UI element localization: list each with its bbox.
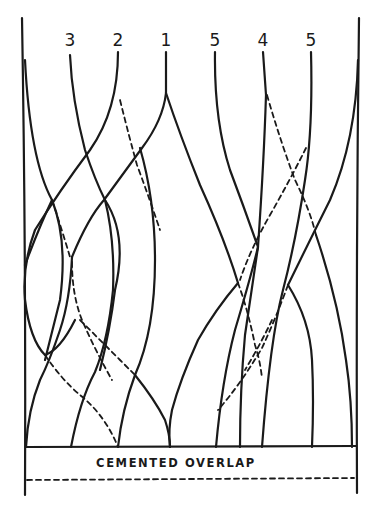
cemented-overlap-caption: CEMENTED OVERLAP: [96, 456, 256, 470]
strand-dashed-left-c: [45, 355, 118, 447]
strand-dashed-right-a: [240, 148, 306, 280]
strand-label-3: 3: [65, 30, 76, 50]
strand-label-5b: 5: [306, 30, 317, 50]
base-line: [26, 446, 356, 447]
strand-outer-left: [25, 60, 63, 360]
strand-5b: [262, 52, 311, 447]
strand-5a: [215, 52, 258, 247]
overlap-dashed-line: [27, 478, 354, 480]
strand-1-left-branch: [72, 93, 166, 257]
strand-dashed-left-a: [52, 200, 70, 257]
strand-right-lower-d: [316, 235, 352, 447]
strand-overlap-diagram: 3 2 1 5 4 5 CEMENTED OVERLAP: [0, 0, 379, 521]
strand-dashed-right-d: [245, 320, 272, 370]
strand-dashed-right-c: [218, 285, 288, 410]
strand-label-5a: 5: [210, 30, 221, 50]
left-border-line: [22, 18, 25, 495]
strand-outer-right: [288, 60, 358, 285]
strand-dashed-left-b: [72, 262, 112, 380]
strand-label-2: 2: [113, 30, 124, 50]
strand-1-right-branch: [166, 93, 238, 283]
strand-4-dashed: [267, 95, 316, 235]
strand-2: [24, 52, 118, 355]
strand-3: [70, 55, 105, 200]
strand-4: [240, 52, 266, 447]
strand-mid-c: [118, 148, 155, 447]
strand-label-1: 1: [161, 30, 172, 50]
strand-right-lower-c: [288, 285, 313, 447]
strand-label-4: 4: [258, 30, 269, 50]
strand-2-dashed: [120, 100, 160, 230]
strand-1-lower: [135, 375, 170, 447]
strand-left-lower-a: [25, 200, 52, 265]
strand-left-lower-b: [71, 200, 113, 447]
